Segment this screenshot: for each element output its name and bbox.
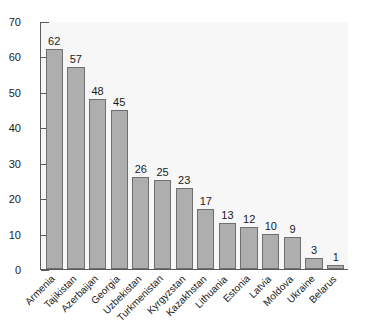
- bar-rect: [284, 237, 301, 269]
- bar-rect: [240, 227, 257, 270]
- y-axis-tick-label: 40: [0, 123, 21, 134]
- bar-latvia[interactable]: 10: [262, 234, 279, 269]
- y-axis-tick-label: 20: [0, 194, 21, 205]
- bar-value-label: 10: [265, 221, 277, 232]
- bar-kyrgyzstan[interactable]: 23: [176, 188, 193, 269]
- bar-rect: [305, 258, 322, 269]
- y-axis-tick-label: 70: [0, 17, 21, 28]
- bar-value-label: 13: [221, 210, 233, 221]
- plot-area: 010203040506070 625748452625231713121093…: [40, 22, 348, 270]
- bar-value-label: 48: [91, 86, 103, 97]
- bar-chart-figure: 010203040506070 625748452625231713121093…: [0, 0, 365, 334]
- bar-rect: [132, 177, 149, 269]
- y-axis-tick-label: 60: [0, 52, 21, 63]
- bar-value-label: 12: [243, 214, 255, 225]
- y-axis-tick: [41, 22, 49, 23]
- bar-lithuania[interactable]: 13: [219, 223, 236, 269]
- bar-georgia[interactable]: 45: [111, 110, 128, 269]
- bar-rect: [176, 188, 193, 269]
- bar-value-label: 17: [200, 196, 212, 207]
- bar-rect: [46, 49, 63, 269]
- bar-value-label: 57: [70, 54, 82, 65]
- bar-moldova[interactable]: 9: [284, 237, 301, 269]
- bar-rect: [197, 209, 214, 269]
- bar-rect: [111, 110, 128, 269]
- y-axis-tick-label: 0: [0, 265, 21, 276]
- bar-rect: [154, 180, 171, 269]
- bar-uzbekistan[interactable]: 26: [132, 177, 149, 269]
- bar-rect: [89, 99, 106, 269]
- bar-value-label: 62: [48, 36, 60, 47]
- bar-value-label: 1: [333, 252, 339, 263]
- bar-value-label: 25: [156, 167, 168, 178]
- bar-estonia[interactable]: 12: [240, 227, 257, 270]
- bar-value-label: 23: [178, 175, 190, 186]
- bar-armenia[interactable]: 62: [46, 49, 63, 269]
- y-axis-tick-label: 30: [0, 158, 21, 169]
- bar-value-label: 26: [135, 164, 147, 175]
- bar-rect: [327, 265, 344, 269]
- bar-azerbaijan[interactable]: 48: [89, 99, 106, 269]
- bar-ukraine[interactable]: 3: [305, 258, 322, 269]
- bar-rect: [262, 234, 279, 269]
- bar-rect: [67, 67, 84, 269]
- bar-value-label: 9: [289, 224, 295, 235]
- bar-belarus[interactable]: 1: [327, 265, 344, 269]
- bar-value-label: 45: [113, 97, 125, 108]
- bar-value-label: 3: [311, 245, 317, 256]
- bar-rect: [219, 223, 236, 269]
- y-axis-tick-label: 50: [0, 87, 21, 98]
- bar-tajikistan[interactable]: 57: [67, 67, 84, 269]
- bar-kazakhstan[interactable]: 17: [197, 209, 214, 269]
- bar-turkmenistan[interactable]: 25: [154, 180, 171, 269]
- y-axis-tick-label: 10: [0, 229, 21, 240]
- y-axis-tick: [41, 270, 49, 271]
